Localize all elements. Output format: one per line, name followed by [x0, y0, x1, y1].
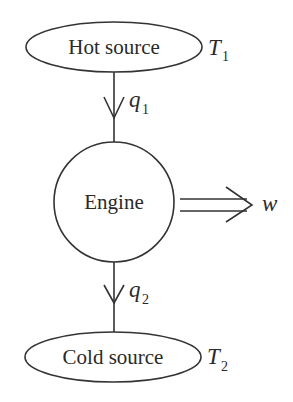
hot-source-label: Hot source — [68, 35, 160, 59]
edge-q2: q 2 — [104, 262, 149, 332]
cold-source-label: Cold source — [63, 345, 164, 369]
engine-node: Engine — [54, 142, 174, 262]
edge-q1: q 1 — [104, 72, 149, 142]
t1-subscript: 1 — [222, 49, 229, 64]
q2-subscript: 2 — [142, 292, 149, 307]
engine-label: Engine — [84, 190, 143, 214]
edge-w: w — [180, 187, 278, 222]
q1-subscript: 1 — [142, 102, 149, 117]
hot-temperature-label: T 1 — [208, 35, 229, 64]
hot-source-node: Hot source — [26, 22, 202, 72]
w-arrowhead-icon — [226, 187, 252, 222]
cold-source-node: Cold source — [25, 332, 201, 382]
heat-engine-diagram: Hot source T 1 q 1 Engine w q 2 Cold sou… — [0, 0, 293, 402]
t2-symbol: T — [207, 344, 222, 369]
t2-subscript: 2 — [221, 359, 228, 374]
cold-temperature-label: T 2 — [207, 344, 228, 374]
q2-symbol: q — [129, 277, 141, 302]
w-symbol: w — [262, 191, 278, 216]
t1-symbol: T — [208, 35, 223, 60]
q1-symbol: q — [129, 87, 141, 112]
